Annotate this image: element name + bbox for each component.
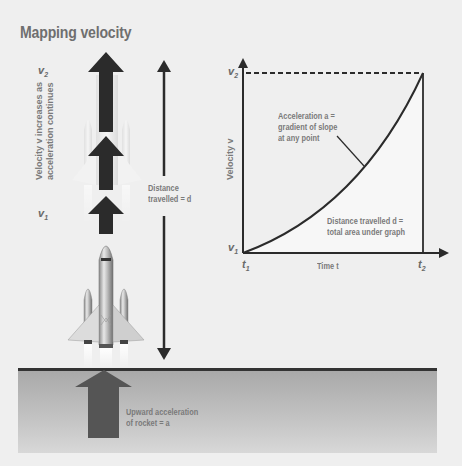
- y-axis-arrowhead: [238, 58, 248, 68]
- velocity-arrow-large: [88, 52, 124, 132]
- velocity-increase-note: Velocity v increases as acceleration con…: [34, 82, 56, 180]
- acceleration-arrow: [75, 370, 132, 438]
- distance-arrow: [157, 60, 171, 360]
- v1-label: v1: [38, 207, 48, 221]
- graph-v2-label: v2: [228, 65, 238, 79]
- acceleration-label: Upward acceleration of rocket = a: [126, 407, 198, 429]
- x-axis-arrowhead: [439, 248, 449, 258]
- y-axis-label: Velocity v: [225, 138, 236, 180]
- rocket: [68, 246, 144, 368]
- gradient-pointer: [337, 136, 364, 166]
- graph-v1-label: v1: [228, 241, 238, 255]
- v2-label: v2: [38, 64, 48, 78]
- gradient-note: Acceleration a = gradient of slope at an…: [278, 111, 337, 144]
- graph-t1-label: t1: [242, 258, 250, 272]
- distance-label: Distance travelled = d: [148, 183, 191, 205]
- x-axis-label: Time t: [317, 261, 339, 272]
- velocity-arrow-small: [88, 196, 124, 234]
- area-note: Distance travelled d = total area under …: [327, 216, 405, 238]
- graph-t2-label: t2: [418, 258, 426, 272]
